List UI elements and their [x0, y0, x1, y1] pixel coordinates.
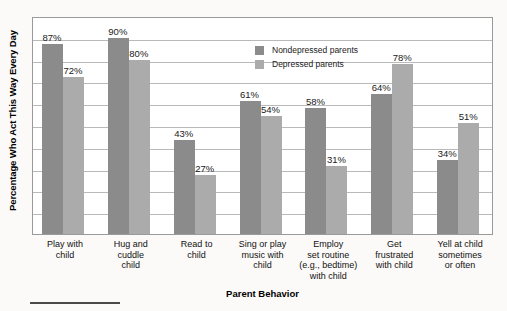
x-axis-category-labels: Play withchildHug andcuddlechildRead toc… — [32, 239, 493, 289]
bar-value-label: 72% — [56, 65, 90, 76]
plot-area: 87%72%90%80%43%27%61%54%58%31%64%78%34%5… — [32, 17, 493, 235]
bar-group: 90%80% — [99, 18, 165, 234]
bar-group: 64%78% — [362, 18, 428, 234]
legend-item-depressed: Depressed parents — [255, 58, 358, 70]
bar-value-label: 90% — [101, 26, 135, 37]
bar-value-label: 78% — [385, 52, 419, 63]
legend-swatch-nondepressed — [255, 46, 264, 55]
bar-value-label: 31% — [319, 154, 353, 165]
bar-nd — [371, 94, 392, 234]
bar-value-label: 43% — [167, 128, 201, 139]
bar-value-label: 54% — [254, 104, 288, 115]
bar-dp — [195, 175, 216, 234]
chart-figure: Percentage Who Act This Way Every Day 87… — [0, 0, 507, 311]
x-axis-category-label: Play withchild — [32, 239, 98, 260]
x-axis-category-label: Employset routine(e.g., bedtime)with chi… — [295, 239, 361, 281]
y-axis-title: Percentage Who Act This Way Every Day — [0, 0, 24, 240]
bar-dp — [392, 64, 413, 234]
y-axis-title-text: Percentage Who Act This Way Every Day — [7, 30, 18, 211]
x-axis-title: Parent Behavior — [32, 288, 493, 299]
bar-nd — [240, 101, 261, 234]
bar-value-label: 51% — [451, 111, 485, 122]
x-axis-category-label: Hug andcuddlechild — [98, 239, 164, 271]
bar-value-label: 80% — [122, 48, 156, 59]
bar-value-label: 27% — [188, 163, 222, 174]
bar-nd — [108, 38, 129, 234]
bar-value-label: 61% — [233, 89, 267, 100]
bar-dp — [261, 116, 282, 234]
x-axis-category-label: Sing or playmusic withchild — [230, 239, 296, 271]
bar-value-label: 58% — [298, 96, 332, 107]
legend-item-nondepressed: Nondepressed parents — [255, 44, 358, 56]
bar-nd — [174, 140, 195, 234]
bar-dp — [129, 60, 150, 234]
legend-label-depressed: Depressed parents — [272, 59, 344, 69]
bar-dp — [326, 166, 347, 234]
bar-nd — [305, 108, 326, 234]
legend-label-nondepressed: Nondepressed parents — [272, 45, 358, 55]
legend: Nondepressed parents Depressed parents — [255, 44, 358, 72]
x-axis-category-label: Yell at childsometimesor often — [427, 239, 493, 271]
bar-group: 34%51% — [428, 18, 494, 234]
bar-group: 87%72% — [33, 18, 99, 234]
bar-value-label: 87% — [35, 32, 69, 43]
bar-dp — [458, 123, 479, 234]
bar-dp — [63, 77, 84, 234]
x-axis-category-label: Read tochild — [164, 239, 230, 260]
bar-group: 43%27% — [165, 18, 231, 234]
legend-swatch-depressed — [255, 60, 264, 69]
footnote-rule — [30, 302, 120, 304]
bar-nd — [437, 160, 458, 234]
x-axis-category-label: Getfrustratedwith child — [361, 239, 427, 271]
